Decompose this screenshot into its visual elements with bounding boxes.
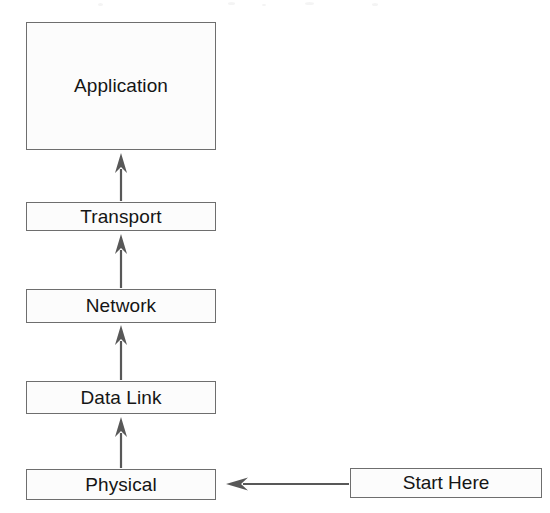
- scan-artifact: [262, 4, 266, 6]
- scan-artifact: [305, 2, 314, 5]
- arrow-physical-to-datalink-head: [115, 417, 127, 437]
- layer-label-data-link: Data Link: [80, 387, 161, 409]
- arrow-datalink-to-network-head: [115, 325, 127, 345]
- layer-box-transport[interactable]: Transport: [26, 202, 216, 231]
- layer-box-physical[interactable]: Physical: [26, 469, 216, 500]
- arrow-start-to-physical-head: [226, 478, 248, 491]
- layer-box-data-link[interactable]: Data Link: [26, 381, 216, 414]
- layer-label-application: Application: [74, 75, 168, 97]
- layer-box-network[interactable]: Network: [26, 289, 216, 323]
- start-here-box[interactable]: Start Here: [350, 468, 542, 498]
- layer-label-physical: Physical: [85, 474, 157, 496]
- start-here-label: Start Here: [403, 472, 490, 494]
- layer-box-application[interactable]: Application: [26, 22, 216, 150]
- diagram-canvas: Application Transport Network Data Link …: [0, 0, 550, 513]
- arrow-transport-to-application-head: [115, 153, 127, 173]
- scan-artifact: [228, 2, 235, 5]
- scan-artifact: [372, 3, 378, 6]
- arrow-network-to-transport-head: [115, 234, 127, 254]
- layer-label-network: Network: [86, 295, 156, 317]
- layer-label-transport: Transport: [80, 206, 162, 228]
- scan-artifact: [98, 3, 103, 6]
